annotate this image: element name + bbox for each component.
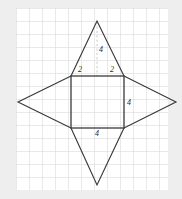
half-base-left-label: 2	[78, 66, 82, 74]
star-net-figure	[0, 0, 182, 199]
square-right-side-label: 4	[127, 99, 131, 107]
half-base-right-label: 2	[110, 66, 114, 74]
square-bottom-side-label: 4	[95, 130, 99, 138]
right-triangle	[124, 76, 176, 128]
left-triangle	[18, 76, 71, 128]
center-square	[71, 76, 124, 128]
figure-canvas: 4 2 2 4 4	[0, 0, 182, 199]
triangle-height-label: 4	[99, 46, 103, 54]
